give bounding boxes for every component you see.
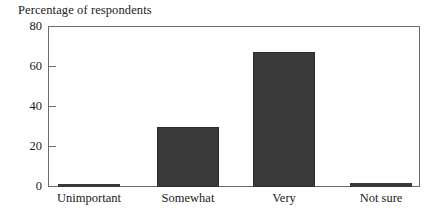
bar-unimportant <box>58 184 120 187</box>
y-tick-label-80: 80 <box>2 20 42 32</box>
x-tick-label-somewhat: Somewhat <box>162 191 215 206</box>
bar-not-sure <box>350 183 412 187</box>
y-tick-label-40: 40 <box>2 100 42 112</box>
x-tick-label-unimportant: Unimportant <box>57 191 121 206</box>
chart-title: Percentage of respondents <box>18 3 152 18</box>
bar-very <box>253 52 315 187</box>
bar-somewhat <box>157 127 219 187</box>
bar-chart-figure: Percentage of respondents 80 60 40 20 0 … <box>0 0 437 221</box>
x-axis: Unimportant Somewhat Very Not sure <box>48 191 420 211</box>
y-tick-label-20: 20 <box>2 140 42 152</box>
x-tick-label-very: Very <box>272 191 296 206</box>
y-tick-label-0: 0 <box>2 180 42 192</box>
bars-layer <box>48 26 420 187</box>
y-tick-label-60: 60 <box>2 60 42 72</box>
x-tick-label-not-sure: Not sure <box>360 191 403 206</box>
